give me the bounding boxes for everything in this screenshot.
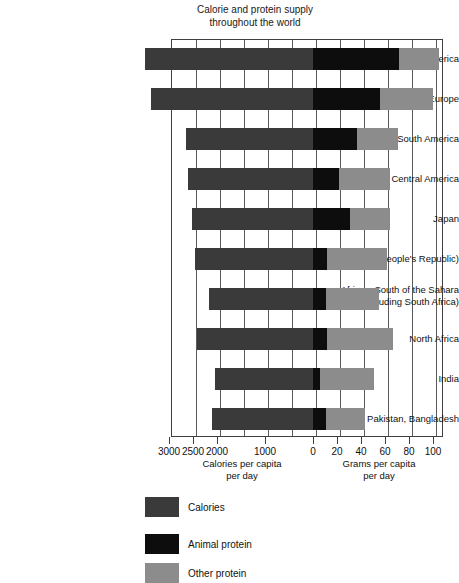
bar-segment-animal-protein (313, 48, 399, 70)
legend-label: Calories (188, 502, 225, 513)
bar-segment-calories (151, 88, 313, 110)
bar-segment-calories (145, 48, 313, 70)
table-row (0, 208, 459, 230)
axis-tick (313, 437, 314, 444)
chart-title-line-1: Calorie and protein supply (155, 3, 355, 16)
legend-swatch (145, 534, 179, 554)
table-row (0, 368, 459, 390)
legend-swatch (145, 563, 179, 583)
bar-segment-calories (215, 368, 313, 390)
table-row (0, 168, 459, 190)
bar-segment-animal-protein (313, 168, 339, 190)
bar-segment-animal-protein (313, 368, 320, 390)
axis-tick-label-protein: 100 (413, 446, 453, 457)
right-axis-caption: Grams per capita per day (304, 458, 454, 481)
table-row (0, 408, 459, 430)
bar-segment-other-protein (327, 328, 393, 350)
chart-title-line-2: throughout the world (155, 16, 355, 29)
legend-label: Other protein (188, 568, 246, 579)
bar-segment-other-protein (320, 368, 374, 390)
bar-segment-other-protein (350, 208, 390, 230)
chart-title: Calorie and protein supply throughout th… (155, 3, 355, 29)
bar-segment-animal-protein (313, 288, 326, 310)
bar-segment-animal-protein (313, 248, 327, 270)
bar-segment-other-protein (339, 168, 389, 190)
bar-segment-animal-protein (313, 128, 357, 150)
bar-segment-calories (192, 208, 313, 230)
left-axis-caption-line-1: Calories per capita (167, 458, 317, 470)
left-axis-caption-line-2: per day (167, 470, 317, 482)
bar-segment-calories (186, 128, 313, 150)
axis-tick (385, 437, 386, 444)
axis-tick (265, 437, 266, 444)
bar-segment-other-protein (357, 128, 398, 150)
bar-segment-other-protein (327, 248, 387, 270)
bar-segment-other-protein (326, 288, 379, 310)
legend-swatch (145, 497, 179, 517)
axis-tick (337, 437, 338, 444)
table-row (0, 328, 459, 350)
right-axis-caption-line-2: per day (304, 470, 454, 482)
legend-label: Animal protein (188, 539, 252, 550)
table-row (0, 288, 459, 310)
axis-tick (433, 437, 434, 444)
axis-tick-label-calories: 1000 (245, 446, 285, 457)
right-axis-caption-line-1: Grams per capita (304, 458, 454, 470)
table-row (0, 48, 459, 70)
left-axis-caption: Calories per capita per day (167, 458, 317, 481)
bar-segment-other-protein (380, 88, 433, 110)
axis-tick (193, 437, 194, 444)
bar-segment-animal-protein (313, 208, 350, 230)
bar-segment-calories (209, 288, 313, 310)
table-row (0, 248, 459, 270)
table-row (0, 88, 459, 110)
axis-tick (361, 437, 362, 444)
bar-segment-calories (212, 408, 313, 430)
bar-segment-animal-protein (313, 88, 380, 110)
bar-segment-calories (197, 328, 313, 350)
bar-segment-animal-protein (313, 328, 327, 350)
axis-tick (409, 437, 410, 444)
axis-tick (169, 437, 170, 444)
axis-tick (217, 437, 218, 444)
bar-segment-other-protein (326, 408, 364, 430)
bar-segment-calories (188, 168, 313, 190)
axis-tick-label-calories: 2000 (197, 446, 237, 457)
table-row (0, 128, 459, 150)
bar-segment-calories (195, 248, 313, 270)
bar-segment-other-protein (399, 48, 439, 70)
bar-segment-animal-protein (313, 408, 326, 430)
chart-container: Calorie and protein supply throughout th… (0, 0, 459, 583)
